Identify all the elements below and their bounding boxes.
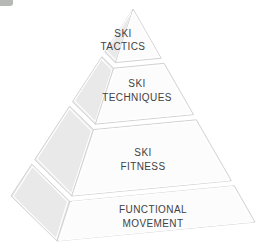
tier-3-label-line-1: SKI <box>134 147 151 158</box>
pyramid-tier-ski-tactics: SKI TACTICS <box>101 9 162 63</box>
ski-pyramid-diagram: FUNCTIONAL MOVEMENT SKI FITNESS SKI TECH… <box>0 0 268 248</box>
tier-2-label-line-1: SKI <box>128 78 145 89</box>
tier-1-label-line-1: SKI <box>114 28 131 39</box>
tier-2-label-line-2: TECHNIQUES <box>102 92 172 103</box>
corner-fragment <box>0 0 13 6</box>
tier-3-label-line-2: FITNESS <box>120 161 165 172</box>
tier-4-label-line-1: FUNCTIONAL <box>119 204 187 215</box>
tier-4-label-line-2: MOVEMENT <box>123 218 184 229</box>
pyramid-tier-ski-techniques: SKI TECHNIQUES <box>73 57 194 124</box>
tier-1-label-line-2: TACTICS <box>101 41 146 52</box>
